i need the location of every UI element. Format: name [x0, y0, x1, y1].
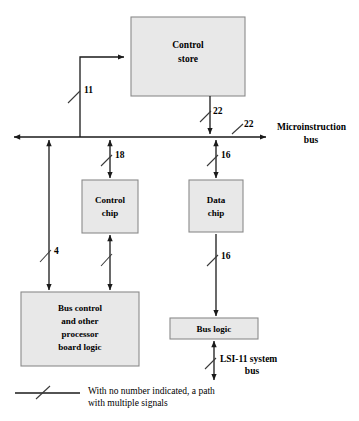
- control-store-address-count: 11: [84, 85, 93, 95]
- path-lsi11-system-bus: LSI-11 system bus: [205, 341, 277, 380]
- control-store-address-wire: [80, 57, 124, 137]
- lsi11-bus-label-line1: LSI-11 system: [220, 354, 277, 364]
- control-store-output-count: 22: [213, 106, 223, 116]
- data-chip-label-line1: Data: [207, 195, 226, 205]
- path-control-store-address: 11: [68, 57, 124, 137]
- path-data-chip-to-bus-logic: 16: [207, 234, 231, 316]
- block-control-chip: Control chip: [82, 180, 138, 233]
- path-control-chip-bus: 18: [101, 140, 125, 178]
- bus-control-label-line2: and other: [61, 316, 98, 326]
- data-chip-bus-count: 16: [221, 150, 231, 160]
- block-data-chip: Data chip: [189, 180, 243, 232]
- bus-logic-label: Bus logic: [197, 324, 232, 334]
- control-store-label-line2: store: [178, 54, 198, 64]
- block-bus-logic: Bus logic: [170, 318, 258, 339]
- microinstruction-bus-count: 22: [244, 119, 254, 129]
- microinstruction-bus-line: 22 Microinstruction bus: [14, 119, 347, 145]
- diagram-canvas: Control store Control chip Data chip Bus…: [0, 0, 359, 421]
- microinstruction-bus-label-line2: bus: [304, 135, 319, 145]
- path-bus-control-left: 4: [40, 140, 59, 290]
- control-chip-bus-count: 18: [115, 150, 125, 160]
- data-chip-box: [189, 180, 243, 232]
- bus-control-label-line4: board logic: [58, 342, 101, 352]
- control-chip-box: [82, 180, 138, 233]
- block-diagram-figure: Control store Control chip Data chip Bus…: [0, 0, 359, 421]
- control-store-address-slash: [68, 91, 80, 103]
- bus-control-left-count: 4: [54, 246, 59, 256]
- control-store-label-line1: Control: [172, 40, 204, 50]
- bus-control-label-line1: Bus control: [58, 303, 103, 313]
- path-data-chip-bus: 16: [207, 140, 231, 178]
- legend-text-line1: With no number indicated, a path: [88, 386, 215, 396]
- legend-text-line2: with multiple signals: [88, 398, 168, 408]
- microinstruction-bus-slash: [232, 124, 243, 134]
- control-chip-label-line1: Control: [95, 195, 125, 205]
- path-control-chip-to-bus-control: [101, 235, 112, 290]
- lsi11-bus-label-line2: bus: [245, 366, 260, 376]
- data-chip-label-line2: chip: [208, 208, 225, 218]
- control-chip-label-line2: chip: [102, 208, 119, 218]
- bus-control-label-line3: processor: [62, 329, 99, 339]
- block-control-store: Control store: [131, 17, 245, 96]
- data-chip-bus-logic-count: 16: [221, 251, 231, 261]
- legend: With no number indicated, a path with mu…: [15, 386, 215, 408]
- microinstruction-bus-label-line1: Microinstruction: [277, 122, 347, 132]
- block-bus-control: Bus control and other processor board lo…: [21, 292, 139, 366]
- path-control-store-output: 22: [200, 96, 223, 134]
